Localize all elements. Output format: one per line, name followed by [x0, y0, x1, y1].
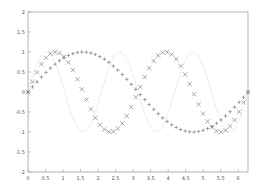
series-line	[28, 52, 248, 132]
x-tick-label: 4.5	[182, 175, 190, 181]
x-tick-label: 2	[96, 175, 99, 181]
y-tick-label: -2	[20, 169, 25, 175]
y-tick-label: 0.5	[17, 69, 25, 75]
x-tick-label: 3.5	[147, 175, 155, 181]
line-chart: 00.511.522.533.544.555.5621.510.50-0.5-1…	[0, 0, 260, 191]
x-tick-label: 1	[61, 175, 64, 181]
y-tick-label: -1	[20, 129, 25, 135]
axis-ticks: 00.511.522.533.544.555.5621.510.50-0.5-1…	[15, 9, 245, 181]
x-tick-label: 5.5	[217, 175, 225, 181]
x-tick-label: 2.5	[112, 175, 120, 181]
x-tick-label: 1.5	[77, 175, 85, 181]
x-tick-label: 5	[202, 175, 205, 181]
plot-series	[26, 50, 250, 134]
y-tick-label: 2	[22, 9, 25, 15]
y-tick-label: -0.5	[15, 109, 25, 115]
x-tick-label: 6	[237, 175, 240, 181]
x-tick-label: 0	[26, 175, 29, 181]
y-tick-label: -1.5	[15, 149, 25, 155]
x-tick-label: 0.5	[42, 175, 50, 181]
x-tick-label: 4	[167, 175, 170, 181]
y-tick-label: 0	[22, 89, 25, 95]
y-tick-label: 1	[22, 49, 25, 55]
x-tick-label: 3	[132, 175, 135, 181]
y-tick-label: 1.5	[17, 29, 25, 35]
